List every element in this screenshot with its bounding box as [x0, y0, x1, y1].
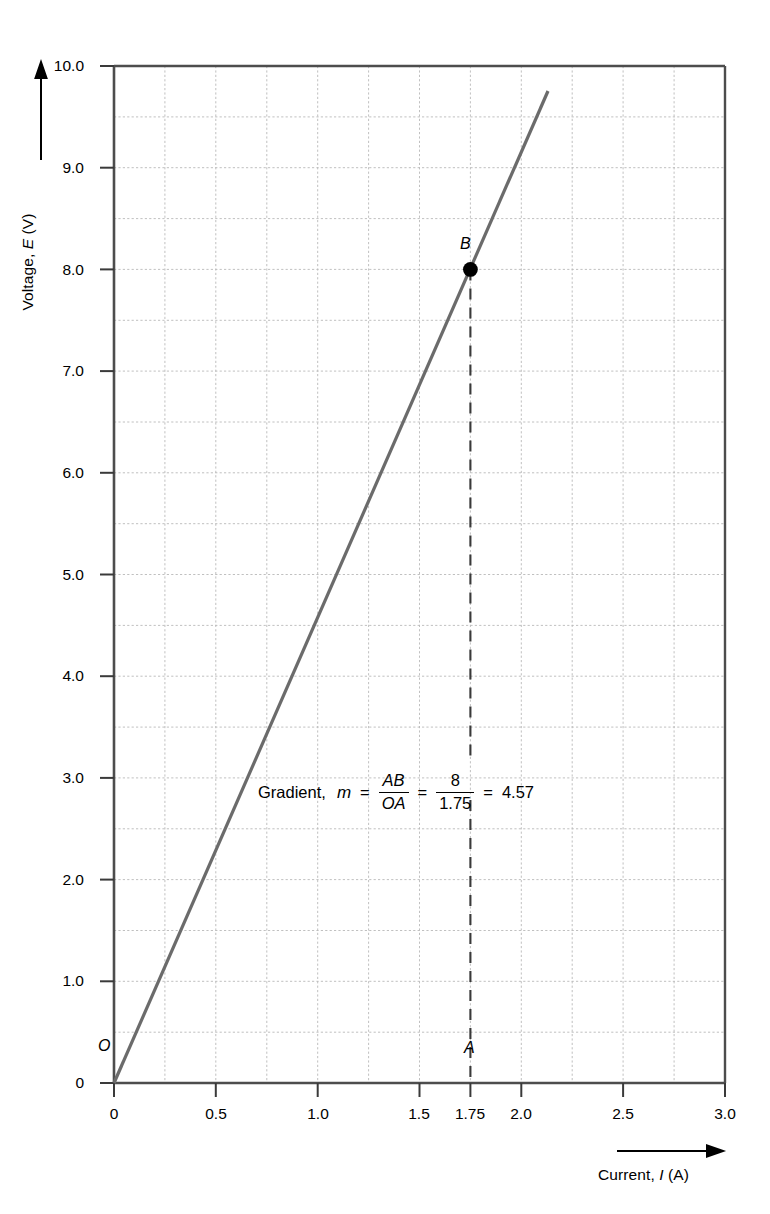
y-tick-label-5: 5.0 [26, 567, 84, 583]
x-axis-label-prefix: Current, [598, 1166, 659, 1183]
y-tick-label-7: 7.0 [26, 363, 84, 379]
x-axis-arrow [617, 1146, 723, 1157]
x-axis-label: Current, I (A) [598, 1166, 689, 1184]
x-tick-label-1.0: 1.0 [288, 1106, 348, 1122]
fraction-ab-oa-bar [379, 792, 409, 794]
x-axis-label-unit: (A) [664, 1166, 689, 1183]
gradient-prefix: Gradient, [258, 784, 326, 801]
y-axis-label-prefix: Voltage, [19, 249, 36, 310]
y-axis-label-unit: (V) [19, 213, 36, 238]
gradient-result: 4.57 [502, 784, 534, 801]
y-axis-ticks [100, 66, 114, 1083]
y-tick-label-6: 6.0 [26, 465, 84, 481]
fraction-8-175-denominator: 1.75 [436, 794, 474, 813]
fraction-8-175-bar [436, 792, 474, 794]
y-tick-label-2: 2.0 [26, 872, 84, 888]
y-axis-label: Voltage, E (V) [19, 172, 37, 352]
x-tick-label-0.5: 0.5 [186, 1106, 246, 1122]
chart-canvas: 10.0 9.0 8.0 7.0 6.0 5.0 4.0 3.0 2.0 1.0… [0, 0, 770, 1214]
x-tick-label-3.0: 3.0 [695, 1106, 755, 1122]
y-tick-label-10: 10.0 [26, 58, 84, 74]
plot-svg [0, 0, 770, 1214]
gradient-equals-3: = [474, 784, 502, 801]
fraction-8-175: 8 1.75 [436, 772, 474, 813]
fraction-ab-oa-denominator: OA [379, 794, 409, 813]
x-tick-label-2.0: 2.0 [491, 1106, 551, 1122]
y-axis-label-var: E [19, 239, 36, 249]
fraction-ab-oa: AB OA [379, 772, 409, 813]
point-label-o: O [98, 1038, 110, 1054]
grid-lines [114, 66, 725, 1083]
gradient-variable: m [337, 784, 351, 801]
fraction-8-175-numerator: 8 [448, 772, 463, 791]
y-axis-arrow [36, 62, 47, 160]
y-tick-label-1: 1.0 [26, 973, 84, 989]
fraction-ab-oa-numerator: AB [380, 772, 408, 791]
gradient-annotation: Gradient, m = AB OA = 8 1.75 = 4.57 [258, 772, 534, 813]
gradient-equals-2: = [409, 784, 437, 801]
y-tick-label-4: 4.0 [26, 668, 84, 684]
x-tick-label-0: 0 [84, 1106, 144, 1122]
data-line-series-0 [114, 91, 548, 1083]
y-tick-label-0: 0 [26, 1075, 84, 1091]
point-label-a: A [464, 1040, 475, 1056]
gradient-equals-1: = [351, 784, 379, 801]
x-tick-label-2.5: 2.5 [593, 1106, 653, 1122]
y-tick-label-3: 3.0 [26, 770, 84, 786]
point-label-b: B [460, 236, 471, 252]
x-axis-ticks [114, 1083, 725, 1097]
point-b-marker [463, 262, 478, 277]
